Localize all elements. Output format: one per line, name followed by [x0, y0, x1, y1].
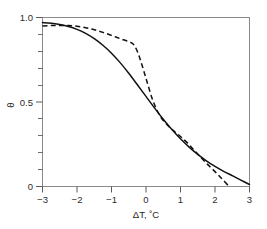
x-ticklabel--3: −3: [37, 194, 48, 205]
y-ticklabel-0.5: 0.5: [20, 97, 33, 108]
x-ticklabel--1: −1: [106, 194, 117, 205]
x-ticklabel-3: 3: [247, 194, 252, 205]
y-ticklabel-1.0: 1.0: [20, 12, 33, 23]
x-ticklabel-2: 2: [212, 194, 217, 205]
x-ticklabel-0: 0: [143, 194, 148, 205]
x-axis-title: ΔT, ˚C: [133, 209, 160, 220]
chart-figure: 1.0 0.5 0 −3 −2 −1 0 1 2 3 ΔT, ˚C θ: [0, 0, 267, 229]
x-ticklabel--2: −2: [72, 194, 83, 205]
chart-canvas: 1.0 0.5 0 −3 −2 −1 0 1 2 3 ΔT, ˚C θ: [0, 0, 267, 229]
x-ticklabel-1: 1: [178, 194, 183, 205]
y-ticklabel-0: 0: [28, 181, 33, 192]
y-axis-title: θ: [5, 102, 16, 107]
